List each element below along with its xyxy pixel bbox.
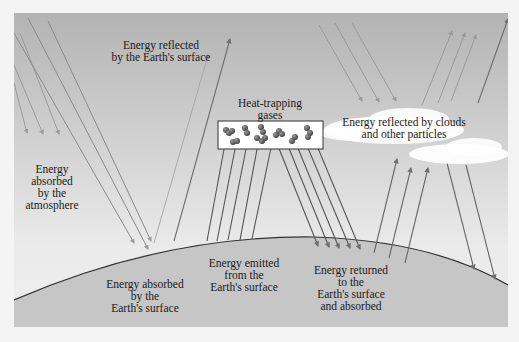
label-reflected-by-clouds: Energy reflected by clouds and other par… [334,116,474,140]
greenhouse-diagram: Energy reflected by the Earth's surface … [14,13,508,327]
label-absorbed-by-surface: Energy absorbed by the Earth's surface [90,278,200,314]
label-heat-trapping-gases: Heat-trapping gases [220,97,320,121]
label-returned-to-surface: Energy returned to the Earth's surface a… [296,264,406,312]
label-absorbed-by-atmosphere: Energy absorbed by the atmosphere [22,163,82,211]
label-emitted-from-surface: Energy emitted from the Earth's surface [194,257,294,293]
label-reflected-by-surface: Energy reflected by the Earth's surface [96,39,226,63]
